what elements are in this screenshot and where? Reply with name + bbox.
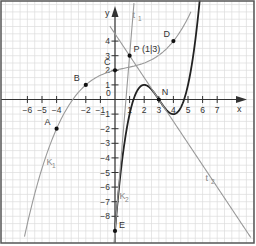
point-marker xyxy=(171,39,175,43)
y-tick-label: −5 xyxy=(100,168,110,178)
function-graph: xy0−6−5−4−2−112345674321−1−2−3−4−5−6−7−8… xyxy=(0,0,256,246)
y-tick-label: −8 xyxy=(100,211,110,221)
point-label: P (1|3) xyxy=(134,44,161,54)
point-label: A xyxy=(45,117,51,127)
y-axis-arrow-icon xyxy=(112,6,119,17)
x-tick-label: 5 xyxy=(186,105,191,115)
y-tick-label: −6 xyxy=(100,182,110,192)
point-marker xyxy=(113,229,117,233)
y-tick-label: 4 xyxy=(105,36,110,46)
y-tick-label: −4 xyxy=(100,153,110,163)
x-tick-label: −4 xyxy=(52,105,62,115)
point-marker xyxy=(128,54,132,58)
curve-label-t1: t xyxy=(133,10,136,20)
y-tick-label: −1 xyxy=(100,109,110,119)
curve-label-t2: t xyxy=(206,173,209,183)
point-marker xyxy=(157,97,161,101)
x-tick-label: 7 xyxy=(215,105,220,115)
curves: K1K2t1t2 xyxy=(24,1,250,244)
point-label: B xyxy=(74,73,80,83)
x-tick-label: −6 xyxy=(23,105,33,115)
x-tick-label: −2 xyxy=(81,105,91,115)
y-tick-label: −7 xyxy=(100,197,110,207)
curve-t1 xyxy=(114,3,134,243)
curve-label-sub-k2: 2 xyxy=(125,196,129,203)
coordinate-system: xy0−6−5−4−2−112345674321−1−2−3−4−5−6−7−8… xyxy=(0,0,256,246)
curve-label-sub-t1: 1 xyxy=(138,15,142,22)
x-tick-label: 6 xyxy=(200,105,205,115)
x-tick-label: 3 xyxy=(156,105,161,115)
point-marker xyxy=(55,127,59,131)
y-tick-label: −3 xyxy=(100,138,110,148)
y-tick-label: 1 xyxy=(105,80,110,90)
curve-label-sub-k1: 1 xyxy=(52,162,56,169)
point-label: E xyxy=(119,220,125,230)
y-tick-label: −2 xyxy=(100,124,110,134)
point-label: C xyxy=(104,57,111,67)
x-axis-label: x xyxy=(237,104,242,114)
y-axis-label: y xyxy=(105,8,110,18)
x-axis-arrow-icon xyxy=(236,96,247,103)
point-label: N xyxy=(162,87,169,97)
curve-label-sub-t2: 2 xyxy=(211,178,215,185)
curve-t2 xyxy=(110,26,251,237)
point-marker xyxy=(84,83,88,87)
x-tick-label: 2 xyxy=(142,105,147,115)
point-marker xyxy=(113,68,117,72)
point-label: D xyxy=(163,29,170,39)
x-tick-label: −5 xyxy=(37,105,47,115)
